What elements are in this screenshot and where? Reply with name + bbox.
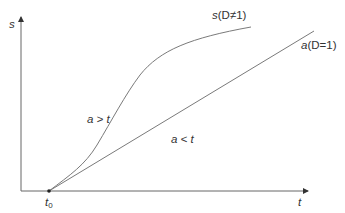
line-a-label-cond: (D=1): [307, 39, 336, 51]
x-axis-label: t: [298, 197, 301, 209]
region-above-label: a > t: [87, 114, 110, 126]
line-a-label: a(D=1): [301, 40, 336, 52]
diagram-canvas: [0, 0, 345, 213]
curve-s-label: s(D≠1): [212, 10, 246, 22]
line-a-d-equals-1: [49, 31, 314, 191]
curve-s-d-not-1: [49, 27, 251, 191]
curve-s-label-cond: (D≠1): [218, 9, 247, 21]
y-axis-label: s: [9, 19, 15, 31]
origin-label-subscript: 0: [48, 201, 52, 210]
origin-point: [47, 189, 51, 193]
origin-label: t0: [45, 197, 53, 210]
region-below-label: a < t: [171, 134, 194, 146]
